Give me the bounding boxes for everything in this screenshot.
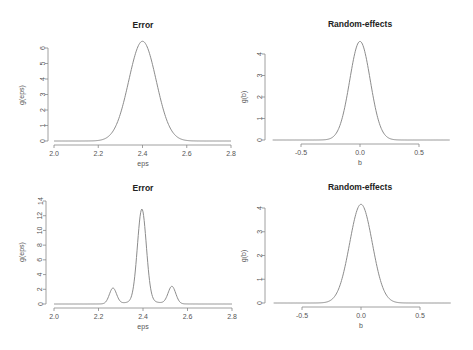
y-tick-label: 3	[256, 230, 263, 234]
chart-title: Random-effects	[328, 19, 393, 29]
y-tick-label: 12	[37, 212, 44, 220]
chart-title: Error	[133, 183, 154, 193]
y-axis-label: g(b)	[240, 250, 248, 262]
x-tick-label: 0.5	[415, 312, 425, 319]
y-tick-label: 2	[39, 108, 46, 112]
y-tick-label: 0	[256, 301, 263, 305]
x-tick-label: 0.0	[355, 149, 365, 156]
y-axis-label: g(eps)	[18, 85, 26, 105]
axes: -0.50.00.501234	[256, 206, 425, 319]
axes: 2.02.22.42.62.80123456	[39, 46, 236, 157]
x-axis-label: eps	[137, 160, 149, 168]
density-curve	[273, 41, 450, 140]
y-tick-label: 0	[37, 302, 44, 306]
panel-error-top: Error eps g(eps) 2.02.22.42.62.80123456	[18, 20, 236, 168]
y-tick-label: 2	[256, 95, 263, 99]
x-axis-label: b	[359, 322, 363, 329]
y-tick-label: 0	[256, 138, 263, 142]
y-tick-label: 1	[256, 116, 263, 120]
y-tick-label: 2	[256, 253, 263, 257]
density-curve	[274, 204, 451, 303]
y-tick-label: 4	[256, 206, 263, 210]
chart-canvas: Error eps g(eps) 2.02.22.42.62.80123456 …	[0, 0, 473, 350]
y-tick-label: 3	[256, 73, 263, 77]
y-tick-label: 4	[39, 77, 46, 81]
x-tick-label: 0.5	[414, 149, 424, 156]
y-tick-label: 6	[37, 258, 44, 262]
y-tick-label: 4	[37, 273, 44, 277]
y-tick-label: 0	[39, 139, 46, 143]
y-tick-label: 14	[37, 197, 44, 205]
x-tick-label: -0.5	[296, 312, 308, 319]
panel-random-effects-top: Random-effects b g(b) -0.50.00.501234	[240, 19, 450, 166]
density-curve	[54, 41, 231, 141]
x-tick-label: 2.0	[49, 313, 59, 320]
y-tick-label: 1	[256, 277, 263, 281]
x-tick-label: 2.6	[183, 313, 193, 320]
x-tick-label: 2.0	[49, 150, 59, 157]
panel-error-bottom: Error eps g(eps) 2.02.22.42.62.802468101…	[18, 183, 237, 331]
panel-random-effects-bottom: Random-effects b g(b) -0.50.00.501234	[240, 182, 451, 329]
x-tick-label: 2.8	[227, 313, 237, 320]
chart-title: Random-effects	[328, 182, 393, 192]
y-tick-label: 1	[39, 123, 46, 127]
y-tick-label: 3	[39, 92, 46, 96]
x-tick-label: 2.4	[138, 150, 148, 157]
chart-title: Error	[133, 20, 154, 30]
x-tick-label: 2.8	[226, 150, 236, 157]
y-tick-label: 8	[37, 243, 44, 247]
x-tick-label: 0.0	[356, 312, 366, 319]
y-tick-label: 4	[256, 52, 263, 56]
x-tick-label: 2.2	[94, 313, 104, 320]
x-tick-label: 2.4	[138, 313, 148, 320]
x-tick-label: 2.6	[182, 150, 192, 157]
x-tick-label: -0.5	[295, 149, 307, 156]
y-tick-label: 10	[37, 226, 44, 234]
density-curve	[54, 209, 232, 304]
y-tick-label: 6	[39, 46, 46, 50]
x-tick-label: 2.2	[93, 150, 103, 157]
x-axis-label: eps	[137, 323, 149, 331]
y-tick-label: 5	[39, 61, 46, 65]
x-axis-label: b	[358, 159, 362, 166]
y-axis-label: g(b)	[240, 91, 248, 103]
figure: Error eps g(eps) 2.02.22.42.62.80123456 …	[0, 0, 473, 350]
y-axis-label: g(eps)	[18, 242, 26, 262]
y-tick-label: 2	[37, 287, 44, 291]
